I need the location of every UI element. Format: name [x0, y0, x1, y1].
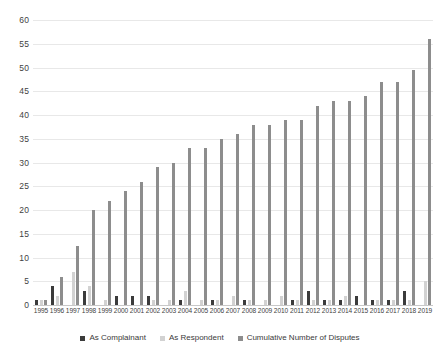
bar-complainant: [115, 296, 118, 306]
x-axis-tick-label: 1995: [34, 307, 48, 315]
bar-complainant: [387, 300, 390, 305]
x-axis-tick-label: 2014: [338, 307, 352, 315]
bar-chart: 051015202530354045505560 199519961997199…: [0, 0, 440, 355]
bar-group: [65, 20, 81, 305]
y-axis-tick-label: 5: [3, 277, 29, 286]
bar-cumulative: [172, 163, 175, 306]
x-axis-tick-label: 1996: [50, 307, 64, 315]
bar-complainant: [243, 300, 246, 305]
bar-group: [49, 20, 65, 305]
bar-complainant: [131, 296, 134, 306]
x-axis-tick-label: 2012: [306, 307, 320, 315]
bar-group: [337, 20, 353, 305]
legend-item[interactable]: As Complainant: [80, 334, 145, 342]
y-axis-tick-label: 20: [3, 206, 29, 215]
bar-cumulative: [124, 191, 127, 305]
bar-group: [257, 20, 273, 305]
bar-cumulative: [140, 182, 143, 306]
bar-respondent: [152, 300, 155, 305]
bar-cumulative: [76, 246, 79, 305]
y-axis-tick-label: 55: [3, 40, 29, 49]
bar-respondent: [40, 300, 43, 305]
bar-cumulative: [428, 39, 431, 305]
legend-item[interactable]: As Respondent: [160, 334, 224, 342]
bar-group: [145, 20, 161, 305]
x-axis-tick-label: 2005: [194, 307, 208, 315]
bar-complainant: [35, 300, 38, 305]
bar-complainant: [371, 300, 374, 305]
bar-respondent: [200, 300, 203, 305]
x-axis-tick-label: 1998: [82, 307, 96, 315]
bar-cumulative: [188, 148, 191, 305]
bar-group: [353, 20, 369, 305]
x-axis-tick-label: 2009: [258, 307, 272, 315]
bar-respondent: [72, 272, 75, 305]
legend-label: As Respondent: [169, 334, 224, 342]
bar-group: [417, 20, 433, 305]
bar-cumulative: [108, 201, 111, 306]
bar-complainant: [51, 286, 54, 305]
x-axis-tick-label: 2006: [210, 307, 224, 315]
chart-legend: As ComplainantAs RespondentCumulative Nu…: [0, 334, 440, 342]
bar-complainant: [179, 300, 182, 305]
y-axis-tick-label: 10: [3, 253, 29, 262]
bar-complainant: [323, 300, 326, 305]
y-axis-tick-label: 45: [3, 87, 29, 96]
bar-group: [321, 20, 337, 305]
x-axis: 1995199619971998199920002001200220032004…: [33, 307, 433, 321]
bar-group: [385, 20, 401, 305]
bar-respondent: [168, 300, 171, 305]
bar-group: [289, 20, 305, 305]
bar-group: [129, 20, 145, 305]
x-axis-tick-label: 2004: [178, 307, 192, 315]
bar-respondent: [408, 300, 411, 305]
y-axis-tick-label: 15: [3, 230, 29, 239]
square-swatch-icon: [238, 336, 243, 341]
bar-cumulative: [220, 139, 223, 305]
x-axis-tick-label: 2000: [114, 307, 128, 315]
bar-cumulative: [60, 277, 63, 306]
x-axis-tick-label: 2003: [162, 307, 176, 315]
bar-group: [81, 20, 97, 305]
bar-cumulative: [92, 210, 95, 305]
bar-respondent: [392, 300, 395, 305]
bar-respondent: [424, 281, 427, 305]
bar-group: [193, 20, 209, 305]
bar-group: [209, 20, 225, 305]
bar-group: [161, 20, 177, 305]
bar-group: [113, 20, 129, 305]
x-axis-tick-label: 2007: [226, 307, 240, 315]
y-axis-tick-label: 40: [3, 111, 29, 120]
bar-complainant: [83, 291, 86, 305]
x-axis-tick-label: 2011: [290, 307, 304, 315]
bar-cumulative: [412, 70, 415, 305]
bar-group: [369, 20, 385, 305]
plot-area: [33, 20, 433, 305]
bar-respondent: [312, 300, 315, 305]
bar-cumulative: [252, 125, 255, 306]
bar-respondent: [280, 296, 283, 306]
bar-cumulative: [284, 120, 287, 305]
bar-group: [177, 20, 193, 305]
x-axis-tick-label: 2008: [242, 307, 256, 315]
bar-respondent: [232, 296, 235, 306]
bar-group: [33, 20, 49, 305]
x-axis-tick-label: 2001: [130, 307, 144, 315]
x-axis-tick-label: 2016: [370, 307, 384, 315]
bar-complainant: [403, 291, 406, 305]
legend-label: Cumulative Number of Disputes: [247, 334, 360, 342]
legend-item[interactable]: Cumulative Number of Disputes: [238, 334, 360, 342]
bar-respondent: [184, 291, 187, 305]
bar-cumulative: [44, 300, 47, 305]
x-axis-tick-label: 1997: [66, 307, 80, 315]
bar-cumulative: [204, 148, 207, 305]
gridline: [33, 305, 433, 306]
y-axis-tick-label: 30: [3, 158, 29, 167]
bar-cumulative: [396, 82, 399, 305]
x-axis-tick-label: 2017: [386, 307, 400, 315]
bar-respondent: [376, 300, 379, 305]
bar-respondent: [344, 296, 347, 306]
y-axis: 051015202530354045505560: [0, 20, 29, 305]
bar-cumulative: [348, 101, 351, 305]
bar-cumulative: [316, 106, 319, 306]
